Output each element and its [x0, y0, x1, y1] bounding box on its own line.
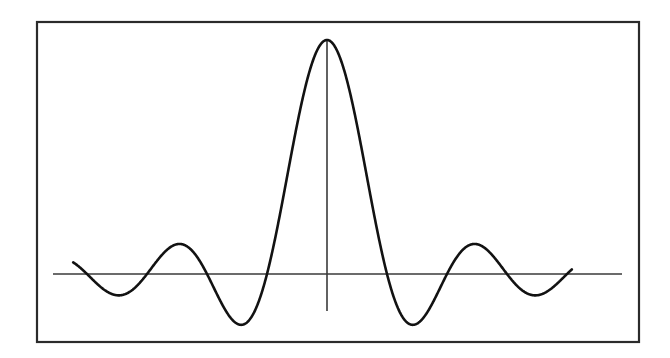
plot-canvas [0, 0, 670, 358]
figure-root [0, 0, 670, 358]
